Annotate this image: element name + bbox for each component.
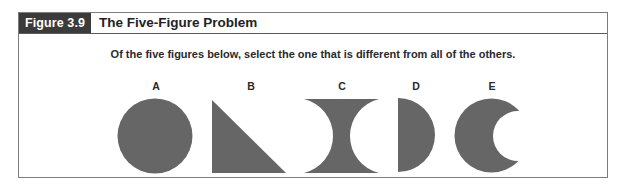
option-b-triangle-shape — [212, 100, 286, 173]
option-a-circle-shape — [118, 99, 193, 174]
option-e-crescent-shape — [455, 99, 529, 173]
shapes-canvas — [0, 0, 625, 189]
option-d-half-circle-shape — [398, 98, 435, 172]
option-c-hourglass-shape — [304, 99, 379, 173]
